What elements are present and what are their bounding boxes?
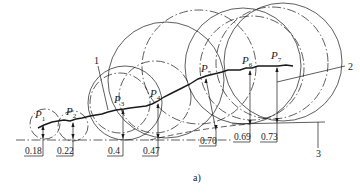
arrowhead-down-icon: [41, 134, 44, 139]
point-label-p1: P1: [34, 108, 46, 123]
value-label-p5: 0.70: [200, 136, 217, 146]
value-label-p2: 0.22: [57, 146, 74, 156]
value-label-p1: 0.18: [25, 146, 42, 156]
callout-1: 1: [94, 55, 99, 66]
arrowhead-down-icon: [121, 134, 124, 139]
circle-p7: [216, 7, 328, 119]
callout-2-leader: [277, 66, 345, 82]
rolling-circle-diagram: 1 2 3 0.18P10.22P20.4P30.47P40.70P50.69P…: [0, 0, 360, 195]
point-label-p5: P5: [200, 62, 212, 77]
value-label-p3: 0.4: [108, 146, 120, 156]
value-label-p4: 0.47: [143, 146, 160, 156]
surface-profile: [38, 65, 293, 128]
callout-2: 2: [348, 61, 353, 72]
point-subscript: 3: [121, 100, 125, 108]
point-label-p6: P6: [241, 54, 253, 69]
figure-caption: a): [193, 172, 201, 184]
circle-p3-solid: [88, 66, 162, 140]
arrowhead-down-icon: [156, 134, 159, 139]
arrowhead-down-icon: [71, 134, 74, 139]
point-subscript: 2: [73, 112, 77, 120]
point-subscript: 4: [157, 94, 161, 102]
callout-3: 3: [316, 148, 321, 159]
point-label-p2: P2: [65, 105, 77, 120]
point-subscript: 6: [249, 61, 253, 69]
point-label-p3: P3: [113, 93, 125, 108]
point-subscript: 7: [278, 56, 282, 64]
point-label-p7: P7: [270, 49, 282, 64]
value-label-p6: 0.69: [234, 132, 251, 142]
arrowhead-up-icon: [71, 122, 74, 127]
arrowhead-up-icon: [204, 78, 207, 83]
callout-1-leader: [98, 66, 108, 110]
point-subscript: 1: [42, 115, 46, 123]
value-label-p7: 0.73: [261, 132, 278, 142]
arrowhead-up-icon: [275, 67, 278, 72]
point-subscript: 5: [208, 69, 212, 77]
arrowhead-up-icon: [248, 70, 251, 75]
